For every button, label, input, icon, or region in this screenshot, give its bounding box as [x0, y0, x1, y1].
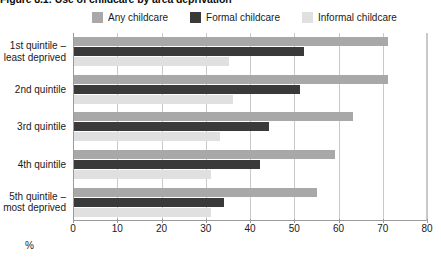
bar-any-childcare	[74, 188, 317, 197]
bar-group	[74, 33, 426, 71]
bar-informal-childcare	[74, 95, 233, 104]
bar-formal-childcare	[74, 160, 260, 169]
chart-legend: Any childcare Formal childcare Informal …	[92, 12, 397, 23]
gridline-80	[427, 33, 428, 220]
legend-item-formal-childcare: Formal childcare	[190, 12, 280, 23]
x-axis-tick-label: 70	[377, 223, 388, 234]
x-axis-tick-label: 20	[156, 223, 167, 234]
x-axis-tick-mark	[206, 219, 207, 223]
x-axis-tick-label: 30	[200, 223, 211, 234]
bar-groups	[74, 33, 426, 220]
x-axis-tick-mark	[427, 219, 428, 223]
x-axis-tick-label: 10	[112, 223, 123, 234]
x-axis-tick-label: 40	[244, 223, 255, 234]
x-axis-tick-label: 0	[70, 223, 76, 234]
x-axis-tick-mark	[339, 219, 340, 223]
x-axis-tick-mark	[250, 219, 251, 223]
y-axis-category-label: 1st quintile –least deprived	[4, 40, 66, 63]
x-axis-ticks: 01020304050607080	[0, 223, 441, 237]
y-axis-labels: 1st quintile –least deprived2nd quintile…	[0, 33, 70, 221]
bar-group	[74, 71, 426, 109]
legend-swatch-any-childcare	[92, 12, 103, 23]
legend-label-informal-childcare: Informal childcare	[318, 12, 397, 23]
bar-informal-childcare	[74, 57, 229, 66]
page-title: Figure 8.1: Use of childcare by area dep…	[0, 0, 232, 5]
y-axis-category-label: 2nd quintile	[15, 84, 66, 96]
plot-area	[73, 33, 427, 221]
bar-group	[74, 146, 426, 184]
bar-formal-childcare	[74, 198, 224, 207]
legend-label-any-childcare: Any childcare	[108, 12, 168, 23]
bar-group	[74, 108, 426, 146]
bar-any-childcare	[74, 150, 335, 159]
x-axis-tick-mark	[383, 219, 384, 223]
legend-item-any-childcare: Any childcare	[92, 12, 168, 23]
x-axis-title-label: %	[25, 240, 34, 251]
bar-any-childcare	[74, 37, 388, 46]
bar-formal-childcare	[74, 85, 300, 94]
legend-swatch-formal-childcare	[190, 12, 201, 23]
x-axis-title: %	[0, 240, 441, 251]
x-axis-tick-mark	[294, 219, 295, 223]
y-axis-category-label: 3rd quintile	[17, 121, 66, 133]
legend-item-informal-childcare: Informal childcare	[302, 12, 397, 23]
bar-formal-childcare	[74, 122, 269, 131]
x-axis-tick-mark	[73, 219, 74, 223]
bar-formal-childcare	[74, 47, 304, 56]
bar-group	[74, 183, 426, 221]
y-axis-category-label: 5th quintile –most deprived	[3, 191, 66, 214]
bar-any-childcare	[74, 75, 388, 84]
legend-label-formal-childcare: Formal childcare	[206, 12, 280, 23]
bar-any-childcare	[74, 112, 353, 121]
bar-informal-childcare	[74, 132, 220, 141]
x-axis-tick-mark	[117, 219, 118, 223]
x-axis-tick-label: 80	[421, 223, 432, 234]
x-axis-tick-label: 50	[289, 223, 300, 234]
x-axis-tick-mark	[162, 219, 163, 223]
bar-informal-childcare	[74, 170, 211, 179]
legend-swatch-informal-childcare	[302, 12, 313, 23]
bar-informal-childcare	[74, 208, 211, 217]
y-axis-category-label: 4th quintile	[18, 159, 66, 171]
x-axis-tick-label: 60	[333, 223, 344, 234]
